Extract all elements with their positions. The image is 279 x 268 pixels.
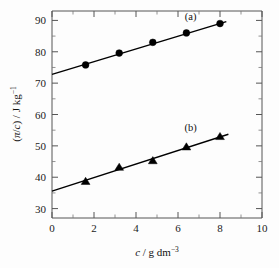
x-tick-label: 10 [257, 222, 269, 234]
data-point-circle [116, 50, 123, 57]
figure-panel: 0246810 30405060708090 (a)(b) c / g dm−3… [0, 0, 279, 268]
series-label: (b) [184, 122, 197, 134]
y-axis-title-exponent: −1 [9, 86, 18, 94]
x-axis-title: c / g dm−3 [135, 245, 179, 258]
y-tick-label: 30 [35, 203, 47, 215]
series-fit-line [52, 134, 228, 191]
data-point-circle [82, 62, 89, 69]
y-axis-tick-labels: 30405060708090 [35, 14, 47, 214]
y-axis-title: (π/c) / J kg−1 [9, 86, 23, 142]
x-axis-title-exponent: −3 [171, 245, 179, 254]
series-data-markers [81, 20, 224, 184]
y-tick-label: 80 [35, 46, 47, 58]
data-point-circle [217, 20, 224, 27]
series-label: (a) [185, 11, 197, 23]
y-axis-title-units: ) / J kg [10, 94, 23, 125]
data-point-triangle [115, 163, 124, 170]
y-tick-label: 60 [35, 109, 47, 121]
y-tick-label: 90 [35, 14, 47, 26]
data-point-circle [183, 30, 190, 37]
series-fit-line [52, 22, 226, 75]
x-tick-label: 0 [49, 222, 55, 234]
series-fit-lines [52, 22, 228, 191]
y-tick-label: 50 [35, 140, 47, 152]
x-tick-label: 6 [175, 222, 181, 234]
scatter-plot: 0246810 30405060708090 (a)(b) c / g dm−3… [0, 0, 279, 268]
data-point-circle [149, 39, 156, 46]
x-axis-tick-labels: 0246810 [49, 222, 268, 234]
y-tick-label: 70 [35, 77, 47, 89]
x-tick-label: 8 [217, 222, 223, 234]
x-axis-title-units: / g dm [140, 246, 171, 258]
y-tick-label: 40 [35, 171, 47, 183]
x-tick-label: 2 [91, 222, 97, 234]
x-tick-label: 4 [133, 222, 139, 234]
